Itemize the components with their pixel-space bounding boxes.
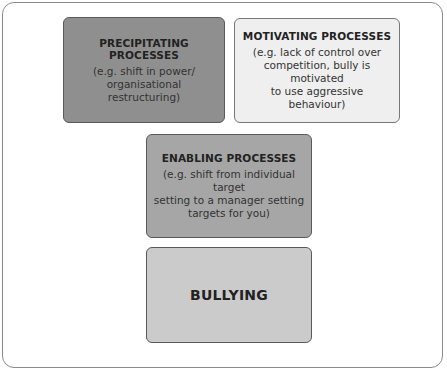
precipitating-processes-box: PRECIPITATING PROCESSES (e.g. shift in p… xyxy=(63,17,225,123)
description-line: (e.g. shift in power/ xyxy=(70,65,218,78)
box-title: PRECIPITATING PROCESSES xyxy=(70,37,218,61)
box-title: ENABLING PROCESSES xyxy=(162,152,297,164)
box-description: (e.g. shift from individual target setti… xyxy=(153,168,305,220)
description-line: (e.g. shift from individual target xyxy=(153,168,305,194)
box-description: (e.g. shift in power/ organisational res… xyxy=(70,65,218,104)
description-line: competition, bully is motivated xyxy=(241,59,393,85)
enabling-processes-box: ENABLING PROCESSES (e.g. shift from indi… xyxy=(146,134,312,238)
motivating-processes-box: MOTIVATING PROCESSES (e.g. lack of contr… xyxy=(234,18,400,123)
description-line: to use aggressive behaviour) xyxy=(241,85,393,111)
description-line: targets for you) xyxy=(153,207,305,220)
box-title: BULLYING xyxy=(190,287,268,303)
description-line: setting to a manager setting xyxy=(153,194,305,207)
box-description: (e.g. lack of control over competition, … xyxy=(241,46,393,111)
bullying-box: BULLYING xyxy=(146,247,312,343)
box-title: MOTIVATING PROCESSES xyxy=(243,30,391,42)
description-line: organisational restructuring) xyxy=(70,78,218,104)
description-line: (e.g. lack of control over xyxy=(241,46,393,59)
